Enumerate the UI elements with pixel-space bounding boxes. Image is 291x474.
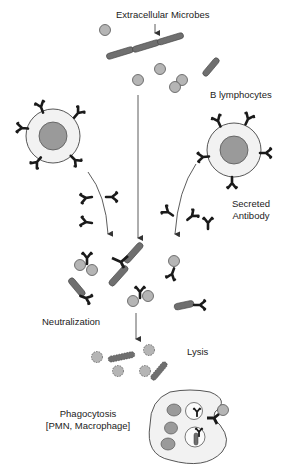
- label-phagocytosis-line1: Phagocytosis: [38, 408, 138, 420]
- label-phagocytosis-line2: [PMN, Macrophage]: [38, 420, 138, 432]
- label-lysis: Lysis: [187, 346, 208, 358]
- label-b-lymphocytes: B lymphocytes: [210, 89, 272, 101]
- label-secreted-line2: Antibody: [226, 210, 276, 222]
- label-extracellular-microbes: Extracellular Microbes: [116, 9, 209, 21]
- phagocyte: [149, 390, 228, 464]
- extracellular-microbes: [100, 24, 221, 93]
- label-secreted-antibody: Secreted Antibody: [226, 198, 276, 222]
- immune-response-diagram: [0, 0, 291, 474]
- left-curved-arrow: [88, 172, 108, 234]
- right-curved-arrow: [175, 164, 196, 234]
- neutralization-complexes: [67, 241, 205, 310]
- lysed-microbes: [92, 345, 169, 382]
- label-phagocytosis: Phagocytosis [PMN, Macrophage]: [38, 408, 138, 432]
- label-secreted-line1: Secreted: [226, 198, 276, 210]
- label-neutralization: Neutralization: [42, 316, 100, 328]
- secreted-antibodies: [80, 192, 213, 230]
- b-lymphocyte-right: [198, 112, 271, 188]
- b-lymphocyte-left: [17, 100, 86, 169]
